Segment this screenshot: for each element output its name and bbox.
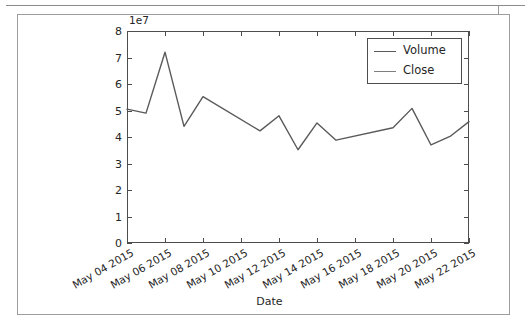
legend-label-close: Close: [403, 65, 434, 77]
legend-swatch-volume: [374, 51, 396, 52]
x-axis-title-text: Date: [256, 295, 282, 308]
page-canvas: 1e7 012345678 May 04 2015May 06 2015May …: [0, 0, 531, 329]
legend-item-volume[interactable]: Volume: [374, 42, 446, 60]
legend-swatch-close: [374, 71, 396, 72]
legend-item-close[interactable]: Close: [374, 62, 434, 80]
legend-label-volume: Volume: [403, 45, 446, 57]
x-axis-title: Date: [0, 295, 531, 308]
chart-legend: Volume Close: [367, 38, 462, 84]
plot-area-wrapper: 1e7 012345678 May 04 2015May 06 2015May …: [0, 0, 531, 329]
